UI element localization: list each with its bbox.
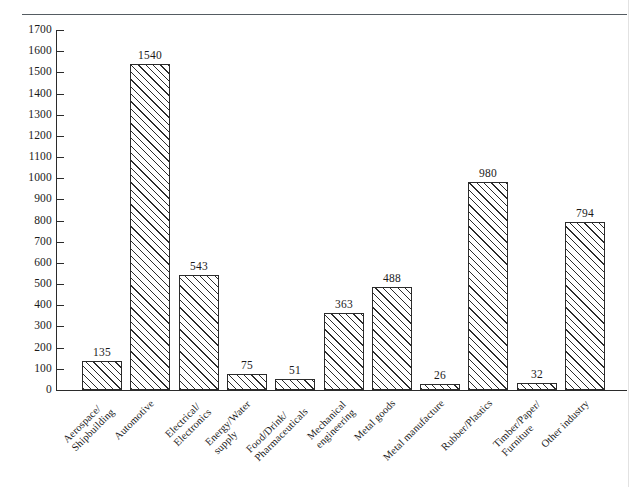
y-axis-tick-label-text: 1400 bbox=[6, 88, 52, 100]
y-axis-tick-label: 800 bbox=[0, 215, 52, 227]
bar-value-label: 543 bbox=[169, 260, 229, 272]
y-axis-tick-label-text: 900 bbox=[6, 193, 52, 205]
y-axis-tick-label-text: 500 bbox=[6, 278, 52, 290]
y-axis-tick-label-text: 300 bbox=[6, 320, 52, 332]
y-axis-tick-label: 300 bbox=[0, 320, 52, 332]
y-axis-tick-label: 600 bbox=[0, 257, 52, 269]
bar bbox=[468, 182, 508, 390]
y-axis-tick-label: 1500 bbox=[0, 66, 52, 78]
y-axis-tick-label: 400 bbox=[0, 299, 52, 311]
y-axis-tick bbox=[57, 178, 64, 179]
y-axis-tick-label-text: 700 bbox=[6, 236, 52, 248]
bar-value-label: 794 bbox=[555, 207, 615, 219]
category-label-line: Other industry bbox=[539, 398, 591, 450]
category-label-line: Rubber/Plastics bbox=[439, 398, 494, 453]
y-axis-tick-label: 500 bbox=[0, 278, 52, 290]
y-axis-tick-label: 0 bbox=[0, 384, 52, 396]
y-axis-tick-label-text: 100 bbox=[6, 363, 52, 375]
y-axis-tick-label-text: 1500 bbox=[6, 66, 52, 78]
x-axis-category-label: Rubber/Plastics bbox=[439, 398, 495, 454]
y-axis-tick-label: 1000 bbox=[0, 172, 52, 184]
bar bbox=[130, 64, 170, 390]
y-axis-tick-label-text: 1100 bbox=[6, 151, 52, 163]
y-axis-tick-label: 1100 bbox=[0, 151, 52, 163]
x-axis-category-label: Mechanicalengineering bbox=[305, 398, 357, 450]
x-axis-category-label: Automotive bbox=[112, 398, 156, 442]
y-axis-tick-label: 1400 bbox=[0, 88, 52, 100]
bar-chart-plot-area: 0100200300400500600700800900100011001200… bbox=[0, 0, 643, 487]
bar-value-label: 51 bbox=[265, 364, 325, 376]
y-axis-tick-label-text: 1300 bbox=[6, 109, 52, 121]
y-axis-tick-label-text: 600 bbox=[6, 257, 52, 269]
y-axis-tick bbox=[57, 326, 64, 327]
y-axis-tick bbox=[57, 157, 64, 158]
y-axis-tick bbox=[57, 51, 64, 52]
y-axis-tick-label-text: 1600 bbox=[6, 45, 52, 57]
y-axis-tick-label-text: 1700 bbox=[6, 24, 52, 36]
bar bbox=[324, 313, 364, 390]
y-axis-tick bbox=[57, 263, 64, 264]
bar-value-label: 363 bbox=[314, 298, 374, 310]
category-label-line: Automotive bbox=[112, 398, 156, 442]
x-axis-category-label: Other industry bbox=[539, 398, 591, 450]
x-axis-category-label: Timber/Paper/Furniture bbox=[491, 398, 551, 458]
y-axis-tick-label: 100 bbox=[0, 363, 52, 375]
y-axis-tick-label: 900 bbox=[0, 193, 52, 205]
bar bbox=[372, 287, 412, 390]
bar bbox=[82, 361, 122, 390]
y-axis-line bbox=[56, 30, 57, 390]
y-axis-tick-label-text: 1200 bbox=[6, 130, 52, 142]
y-axis-tick-label-text: 1000 bbox=[6, 172, 52, 184]
bar-value-label: 32 bbox=[507, 368, 567, 380]
y-axis-tick-label: 1200 bbox=[0, 130, 52, 142]
y-axis-tick-label: 1700 bbox=[0, 24, 52, 36]
x-axis-line bbox=[56, 390, 627, 391]
y-axis-tick bbox=[57, 221, 64, 222]
bar bbox=[275, 379, 315, 390]
y-axis-tick bbox=[57, 305, 64, 306]
y-axis-tick bbox=[57, 199, 64, 200]
y-axis-tick bbox=[57, 136, 64, 137]
y-axis-tick bbox=[57, 94, 64, 95]
y-axis-tick-label-text: 200 bbox=[6, 342, 52, 354]
y-axis-tick-label: 1600 bbox=[0, 45, 52, 57]
y-axis-tick bbox=[57, 30, 64, 31]
bar bbox=[420, 384, 460, 390]
bar bbox=[227, 374, 267, 390]
y-axis-tick bbox=[57, 242, 64, 243]
bar bbox=[517, 383, 557, 390]
y-axis-tick-label: 1300 bbox=[0, 109, 52, 121]
y-axis-tick-label: 200 bbox=[0, 342, 52, 354]
y-axis-tick bbox=[57, 72, 64, 73]
bar bbox=[179, 275, 219, 390]
y-axis-tick-label: 700 bbox=[0, 236, 52, 248]
y-axis-tick bbox=[57, 369, 64, 370]
y-axis-tick-label-text: 800 bbox=[6, 215, 52, 227]
y-axis-tick bbox=[57, 284, 64, 285]
bar-value-label: 26 bbox=[410, 369, 470, 381]
y-axis-tick bbox=[57, 348, 64, 349]
category-label-line: Metal goods bbox=[352, 398, 397, 443]
bar-value-label: 488 bbox=[362, 272, 422, 284]
bar-value-label: 135 bbox=[72, 346, 132, 358]
chart-page: 0100200300400500600700800900100011001200… bbox=[0, 0, 643, 487]
bar-value-label: 980 bbox=[458, 167, 518, 179]
bar bbox=[565, 222, 605, 390]
y-axis-tick-label-text: 0 bbox=[6, 384, 52, 396]
x-axis-category-label: Aerospace/Shipbuilding bbox=[61, 398, 116, 453]
bar-value-label: 1540 bbox=[120, 49, 180, 61]
y-axis-tick bbox=[57, 115, 64, 116]
x-axis-category-label: Metal goods bbox=[352, 398, 398, 444]
y-axis-tick-label-text: 400 bbox=[6, 299, 52, 311]
